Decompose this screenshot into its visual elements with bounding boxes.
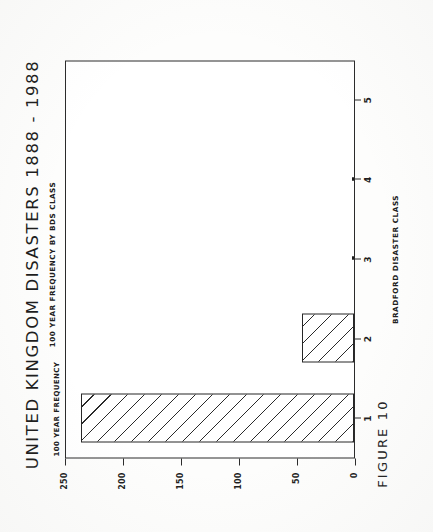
y-tick	[181, 459, 182, 466]
figure-caption: FIGURE 10	[375, 369, 390, 519]
x-axis-title: BRADFORD DISASTER CLASS	[391, 61, 400, 459]
x-tick-label: 1	[363, 409, 373, 429]
x-tick-label: 2	[363, 329, 373, 349]
y-tick-label: 100	[234, 473, 243, 507]
y-tick	[297, 459, 298, 466]
x-tick	[355, 99, 361, 100]
x-tick-label: 4	[363, 170, 373, 190]
y-tick-label: 0	[350, 473, 359, 507]
x-tick	[355, 418, 361, 419]
y-tick-label: 50	[292, 473, 301, 507]
y-tick	[123, 459, 124, 466]
x-tick	[355, 179, 361, 180]
bar-class-4	[351, 177, 353, 180]
x-tick	[355, 338, 361, 339]
x-tick-label: 5	[363, 90, 373, 110]
figure-rotated-container: UNITED KINGDOM DISASTERS 1888 - 1988 100…	[17, 14, 417, 519]
bar-class-1	[81, 393, 354, 442]
y-tick	[65, 459, 66, 466]
y-tick-label: 150	[176, 473, 185, 507]
bar-class-2	[301, 313, 353, 362]
y-axis-title: 100 YEAR FREQUENCY	[53, 362, 61, 457]
y-tick	[239, 459, 240, 466]
chart-title: UNITED KINGDOM DISASTERS 1888 - 1988	[23, 55, 42, 475]
x-tick	[355, 259, 361, 260]
bar-series	[66, 62, 354, 458]
bar-class-3	[351, 257, 353, 260]
x-tick-label: 3	[363, 250, 373, 270]
y-tick-label: 200	[118, 473, 127, 507]
y-tick-label: 250	[60, 473, 69, 507]
y-tick	[355, 459, 356, 466]
plot-area	[65, 61, 355, 459]
scanned-figure-page: UNITED KINGDOM DISASTERS 1888 - 1988 100…	[0, 0, 433, 532]
